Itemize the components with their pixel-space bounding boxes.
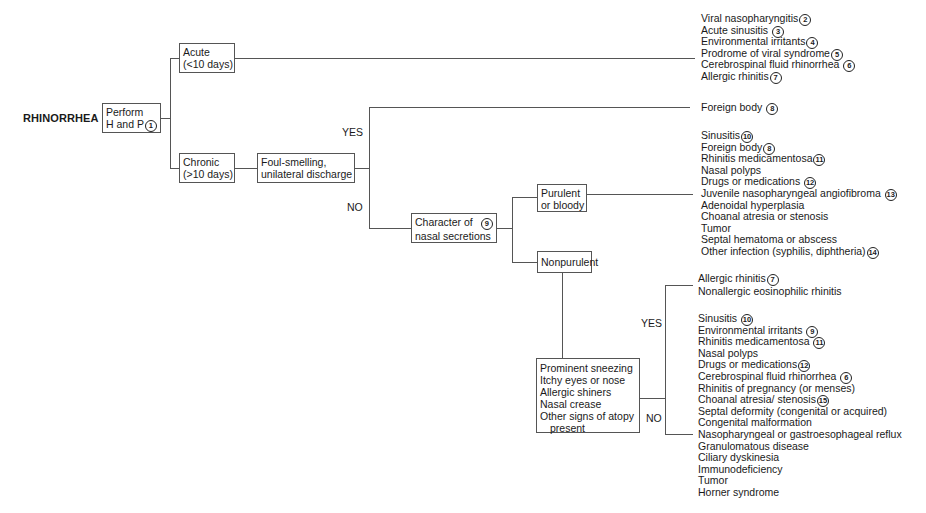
- circled-note-icon: 1: [145, 120, 157, 132]
- list-item-text: Other infection (syphilis, diphtheria): [701, 245, 866, 257]
- node-text: (>10 days): [183, 168, 231, 180]
- list-item: Allergic rhinitis7: [701, 71, 855, 83]
- node-text: or bloody: [541, 199, 583, 211]
- list-item-text: Adenoidal hyperplasia: [701, 199, 804, 211]
- outcome-list-atopy-no: Sinusitis 10Environmental irritants 9Rhi…: [698, 313, 902, 499]
- node-text-line: Character of9: [415, 216, 493, 230]
- list-item-text: Cerebrospinal fluid rhinorrhea: [701, 58, 842, 70]
- list-item-text: Environmental irritants: [701, 35, 805, 47]
- list-item-text: Septal hematoma or abscess: [701, 233, 837, 245]
- circled-note-icon: 6: [843, 60, 855, 72]
- connector-line: [512, 197, 513, 262]
- list-item-text: Rhinitis of pregnancy (or menses): [698, 382, 855, 394]
- node-foul-smelling-discharge: Foul-smelling, unilateral discharge: [257, 153, 355, 183]
- circled-note-icon: 14: [867, 247, 879, 259]
- connector-line: [369, 107, 370, 228]
- node-text-line: H and P1: [106, 118, 157, 132]
- node-text: Chronic: [183, 156, 231, 168]
- list-item-text: Rhinitis medicamentosa: [698, 335, 812, 347]
- node-character-of-secretions: Character of9 nasal secretions: [411, 213, 497, 243]
- connector-line: [369, 228, 411, 229]
- list-item-text: Sinusitis: [698, 312, 740, 324]
- list-item-text: Juvenile nasopharyngeal angiofibroma: [701, 187, 884, 199]
- list-item-text: Foreign body: [701, 101, 765, 113]
- connector-line: [235, 168, 257, 169]
- list-item-text: Granulomatous disease: [698, 440, 809, 452]
- list-item-text: Nasopharyngeal or gastroesophageal reflu…: [698, 428, 902, 440]
- connector-line: [170, 58, 171, 168]
- circled-note-icon: 7: [770, 72, 782, 84]
- node-text: Prominent sneezing: [540, 362, 636, 374]
- node-text: (<10 days): [183, 58, 231, 70]
- node-text: Nonpurulent: [541, 256, 588, 268]
- outcome-list-acute: Viral nasopharyngitis2Acute sinusitis 3E…: [701, 13, 855, 83]
- connector-line: [355, 168, 369, 169]
- list-item: Allergic rhinitis7: [698, 272, 842, 285]
- list-item-text: Foreign body: [701, 141, 762, 153]
- node-text: Nasal crease: [540, 398, 636, 410]
- list-item-text: Horner syndrome: [698, 486, 779, 498]
- list-item-text: Allergic rhinitis: [698, 272, 766, 284]
- list-item-text: Choanal atresia/ stenosis: [698, 393, 816, 405]
- connector-line: [369, 107, 690, 108]
- node-text: Foul-smelling,: [261, 156, 351, 168]
- list-item-text: Tumor: [701, 222, 731, 234]
- list-item-text: Nasal polyps: [701, 164, 761, 176]
- node-text: Other signs of atopy: [540, 410, 636, 422]
- connector-line: [587, 194, 693, 195]
- flowchart-title: RHINORRHEA: [23, 112, 99, 124]
- list-item-text: Septal deformity (congenital or acquired…: [698, 405, 887, 417]
- list-item: Immunodeficiency: [698, 464, 902, 476]
- node-text: Character of: [415, 216, 473, 228]
- node-text: H and P: [106, 118, 144, 130]
- circled-note-icon: 11: [813, 154, 825, 166]
- branch-label-no: NO: [347, 201, 363, 213]
- outcome-list-atopy-yes: Allergic rhinitis7Nonallergic eosinophil…: [698, 272, 842, 298]
- connector-line: [562, 273, 563, 358]
- list-item-text: Acute sinusitis: [701, 24, 771, 36]
- list-item: Foreign body 8: [701, 102, 778, 114]
- circled-note-icon: 11: [813, 337, 825, 349]
- connector-line: [665, 434, 693, 435]
- list-item-text: Viral nasopharyngitis: [701, 12, 798, 24]
- connector-line: [665, 285, 666, 434]
- list-item-text: Ciliary dyskinesia: [698, 451, 779, 463]
- outcome-list-foreign-body: Foreign body 8: [701, 102, 778, 114]
- node-chronic: Chronic (>10 days): [179, 153, 235, 183]
- list-item-text: Immunodeficiency: [698, 463, 783, 475]
- connector-line: [640, 398, 665, 399]
- node-text: Acute: [183, 46, 231, 58]
- list-item-text: Congenital malformation: [698, 416, 812, 428]
- list-item-text: Drugs or medications: [701, 175, 803, 187]
- node-text: present: [540, 422, 636, 434]
- list-item-text: Cerebrospinal fluid rhinorrhea: [698, 370, 839, 382]
- list-item: Horner syndrome: [698, 487, 902, 499]
- list-item-text: Drugs or medications: [698, 358, 797, 370]
- list-item-text: Nasal polyps: [698, 347, 758, 359]
- list-item-text: Prodrome of viral syndrome: [701, 47, 830, 59]
- list-item-text: Environmental irritants: [698, 324, 805, 336]
- list-item-text: Nonallergic eosinophilic rhinitis: [698, 285, 842, 297]
- circled-note-icon: 2: [799, 14, 811, 26]
- node-perform-h-and-p: Perform H and P1: [102, 103, 161, 133]
- connector-line: [497, 228, 512, 229]
- circled-note-icon: 8: [766, 103, 778, 115]
- node-acute: Acute (<10 days): [179, 43, 235, 73]
- branch-label-yes: YES: [342, 126, 363, 138]
- connector-line: [170, 168, 179, 169]
- node-text: Perform: [106, 106, 157, 118]
- connector-line: [161, 118, 170, 119]
- node-purulent-or-bloody: Purulent or bloody: [537, 184, 587, 212]
- outcome-list-purulent: Sinusitis10Foreign body8Rhinitis medicam…: [701, 130, 897, 258]
- list-item-text: Allergic rhinitis: [701, 70, 769, 82]
- branch-label-no: NO: [646, 412, 662, 424]
- node-text: Itchy eyes or nose: [540, 374, 636, 386]
- list-item: Other infection (syphilis, diphtheria)14: [701, 246, 897, 258]
- branch-label-yes: YES: [641, 317, 662, 329]
- connector-line: [512, 197, 537, 198]
- circled-note-icon: 13: [885, 189, 897, 201]
- node-text: unilateral discharge: [261, 168, 351, 180]
- node-text: Allergic shiners: [540, 386, 636, 398]
- node-atopy-signs: Prominent sneezing Itchy eyes or nose Al…: [536, 358, 640, 433]
- connector-line: [512, 262, 537, 263]
